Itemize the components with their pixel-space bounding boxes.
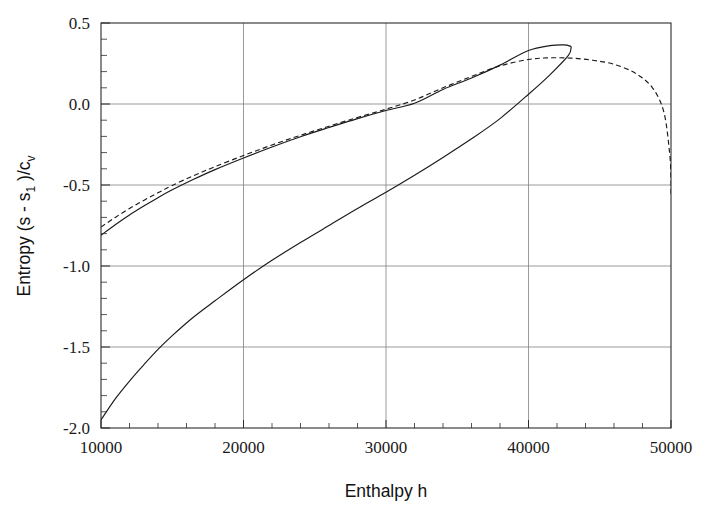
y-tick-label: -1.5 xyxy=(63,338,90,357)
x-tick-label: 20000 xyxy=(222,438,265,457)
y-tick-label: 0.5 xyxy=(69,14,90,33)
y-tick-label: 0.0 xyxy=(69,95,90,114)
y-tick-label: -2.0 xyxy=(63,419,90,438)
x-tick-label: 10000 xyxy=(80,438,123,457)
y-axis-title-pre: Entropy (s - s xyxy=(14,192,34,296)
y-axis-title-mid: )/c xyxy=(14,161,34,186)
x-tick-label: 50000 xyxy=(650,438,693,457)
x-axis-title: Enthalpy h xyxy=(345,481,428,501)
x-tick-label: 40000 xyxy=(507,438,550,457)
y-axis-title-sub-2: v xyxy=(24,155,38,161)
y-tick-label: -0.5 xyxy=(63,176,90,195)
y-tick-label: -1.0 xyxy=(63,257,90,276)
x-tick-label: 30000 xyxy=(365,438,408,457)
entropy-enthalpy-plot: 1000020000300004000050000 0.50.0-0.5-1.0… xyxy=(0,0,717,520)
chart-figure: 1000020000300004000050000 0.50.0-0.5-1.0… xyxy=(0,0,717,520)
